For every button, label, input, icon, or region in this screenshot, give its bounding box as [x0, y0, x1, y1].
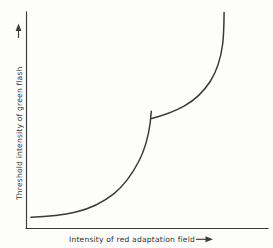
curve-lower-branch: [31, 111, 151, 217]
figure-container: Threshold intensity of green flash Inten…: [0, 0, 273, 248]
plot-canvas: Threshold intensity of green flash Inten…: [0, 0, 273, 248]
x-axis-arrow-icon: [196, 236, 213, 242]
x-axis-label: Intensity of red adaptation field: [69, 235, 195, 244]
y-axis-label: Threshold intensity of green flash: [15, 66, 24, 201]
y-axis-arrow-icon: [16, 24, 22, 39]
curve-upper-branch: [152, 13, 225, 119]
